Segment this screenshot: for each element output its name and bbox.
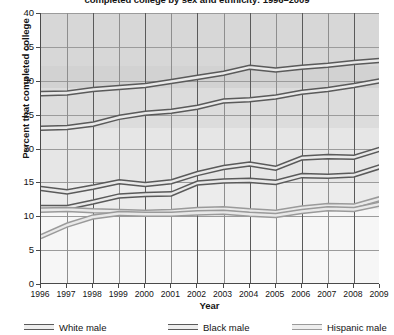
legend-swatch-icon xyxy=(292,324,322,330)
series-line xyxy=(41,79,379,130)
legend-label: Black male xyxy=(203,322,249,333)
x-axis-tick-mark xyxy=(40,284,41,288)
legend-swatch-icon xyxy=(168,324,198,330)
x-axis-tick-mark xyxy=(379,284,380,288)
x-axis-tick-mark xyxy=(144,284,145,288)
y-axis-tick-label: 5 xyxy=(8,244,34,255)
y-axis-tick-label: 25 xyxy=(8,109,34,120)
x-axis-tick-mark xyxy=(353,284,354,288)
x-axis-tick-mark xyxy=(92,284,93,288)
x-axis-tick-label: 2009 xyxy=(364,289,394,299)
x-axis-tick-mark xyxy=(275,284,276,288)
x-axis-tick-mark xyxy=(66,284,67,288)
x-axis-tick-mark xyxy=(223,284,224,288)
x-axis-tick-mark xyxy=(118,284,119,288)
chart-container: completed college by sex and ethnicity: … xyxy=(0,0,394,335)
y-axis-tick-label: 20 xyxy=(8,143,34,154)
y-axis-tick-label: 15 xyxy=(8,176,34,187)
series-edge-upper xyxy=(41,79,379,126)
y-axis-tick-label: 40 xyxy=(8,7,34,18)
chart-title: completed college by sex and ethnicity: … xyxy=(0,0,394,5)
y-axis-tick-label: 30 xyxy=(8,75,34,86)
series-lines xyxy=(41,13,379,284)
legend-label: Hispanic male xyxy=(327,322,387,333)
x-axis-tick-mark xyxy=(301,284,302,288)
legend-swatch-icon xyxy=(24,324,54,330)
legend-item[interactable]: Hispanic male xyxy=(292,320,387,334)
x-axis-tick-mark xyxy=(196,284,197,288)
x-axis-tick-mark xyxy=(249,284,250,288)
y-axis-tick-label: 10 xyxy=(8,210,34,221)
legend-item[interactable]: Black male xyxy=(168,320,249,334)
y-axis-tick-label: 35 xyxy=(8,41,34,52)
legend-item[interactable]: White male xyxy=(24,320,107,334)
plot-area xyxy=(40,13,379,284)
x-axis-label: Year xyxy=(40,300,379,311)
legend-label: White male xyxy=(59,322,107,333)
y-axis-tick-label: 0 xyxy=(8,278,34,289)
series-line xyxy=(41,147,379,194)
chart-legend: White maleBlack maleHispanic male xyxy=(0,320,394,335)
x-axis-tick-mark xyxy=(327,284,328,288)
x-axis-tick-mark xyxy=(170,284,171,288)
